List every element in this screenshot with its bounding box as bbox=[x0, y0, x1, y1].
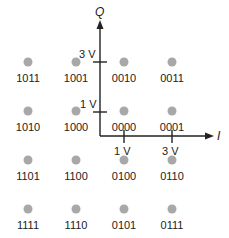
constellation-diagram: Q I 3 V 1 V 1 V 3 V 1011 1001 0010 0011 … bbox=[0, 0, 229, 238]
constellation-point bbox=[168, 205, 177, 214]
constellation-point bbox=[72, 107, 81, 116]
point-code: 0101 bbox=[112, 219, 136, 231]
point-code: 0001 bbox=[160, 121, 184, 133]
point-code: 0100 bbox=[112, 170, 136, 182]
q-tick-label-1v: 1 V bbox=[80, 98, 97, 110]
constellation-point bbox=[24, 107, 33, 116]
point-code: 1011 bbox=[16, 72, 40, 84]
q-axis-arrow-icon bbox=[97, 20, 104, 29]
constellation-point bbox=[24, 205, 33, 214]
constellation-point bbox=[24, 156, 33, 165]
point-code: 1110 bbox=[65, 219, 88, 231]
q-axis-label: Q bbox=[95, 6, 104, 18]
point-code: 0011 bbox=[160, 72, 184, 84]
point-code: 1000 bbox=[64, 121, 88, 133]
constellation-point bbox=[168, 107, 177, 116]
constellation-point bbox=[72, 156, 81, 165]
point-code: 1100 bbox=[64, 170, 88, 182]
constellation-point bbox=[120, 205, 129, 214]
constellation-point bbox=[168, 156, 177, 165]
constellation-point bbox=[72, 58, 81, 67]
i-axis-arrow-icon bbox=[205, 133, 214, 140]
point-code: 0110 bbox=[160, 170, 184, 182]
point-code: 1111 bbox=[17, 219, 39, 231]
point-code: 0111 bbox=[161, 219, 184, 231]
axes-graphic bbox=[0, 0, 229, 238]
constellation-point bbox=[120, 156, 129, 165]
constellation-point bbox=[72, 205, 81, 214]
constellation-point bbox=[168, 58, 177, 67]
point-code: 1010 bbox=[16, 121, 40, 133]
point-code: 1001 bbox=[64, 72, 88, 84]
constellation-point bbox=[120, 58, 129, 67]
i-axis-label: I bbox=[217, 130, 220, 142]
constellation-point bbox=[120, 107, 129, 116]
point-code: 0000 bbox=[112, 121, 136, 133]
point-code: 1101 bbox=[16, 170, 40, 182]
constellation-point bbox=[24, 58, 33, 67]
q-tick-label-3v: 3 V bbox=[79, 48, 96, 60]
point-code: 0010 bbox=[112, 72, 136, 84]
